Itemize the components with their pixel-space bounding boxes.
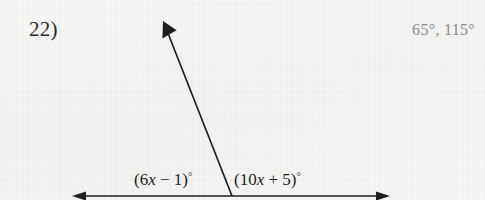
degree-symbol-right: °: [296, 170, 300, 182]
angle-label-right-operator: + 5): [264, 170, 296, 189]
angle-label-right: (10x + 5)°: [234, 171, 301, 188]
baseline-right-arrowhead: [376, 191, 390, 200]
angle-label-right-prefix: (10: [234, 170, 257, 189]
angle-label-left: (6x − 1)°: [134, 171, 192, 188]
worksheet-page: 22) 65°, 115° (6x − 1)° (10x + 5)°: [0, 0, 485, 200]
angle-label-left-prefix: (6: [134, 170, 148, 189]
angle-label-left-variable: x: [148, 170, 156, 189]
angle-label-left-operator: − 1): [156, 170, 188, 189]
baseline-left-arrowhead: [72, 191, 86, 200]
degree-symbol-left: °: [188, 170, 192, 182]
